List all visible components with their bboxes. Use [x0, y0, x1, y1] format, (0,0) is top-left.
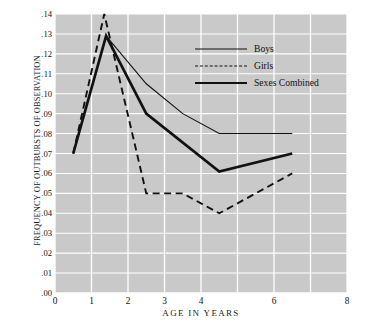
x-tick-label: 0 — [53, 296, 58, 306]
x-tick-label: 6 — [272, 296, 277, 306]
legend-item-sexes-combined: Sexes Combined — [193, 74, 358, 91]
legend-label-girls: Girls — [254, 60, 273, 71]
y-tick-label: .01 — [41, 268, 52, 278]
y-tick-label: .08 — [41, 129, 52, 139]
y-tick-label: .05 — [41, 188, 52, 198]
y-tick-label: .11 — [42, 69, 52, 79]
y-tick-label: .00 — [41, 288, 52, 298]
legend-item-girls: Girls — [193, 57, 358, 74]
y-tick-label: .06 — [41, 168, 52, 178]
thin-solid-line-icon — [193, 43, 249, 55]
x-tick-label: 2 — [126, 296, 131, 306]
y-tick-label: .13 — [41, 29, 52, 39]
x-axis-title: AGE IN YEARS — [55, 308, 347, 318]
thick-solid-line-icon — [193, 77, 249, 89]
y-tick-label: .04 — [41, 208, 52, 218]
legend-label-boys: Boys — [254, 43, 274, 54]
x-tick-label: 8 — [345, 296, 350, 306]
y-tick-label: .02 — [41, 248, 52, 258]
y-tick-label: .03 — [41, 228, 52, 238]
chart-figure: FREQUENCY OF OUTBURSTS OF OBSERVATION .0… — [0, 0, 366, 331]
legend-label-sexes-combined: Sexes Combined — [254, 77, 319, 88]
dashed-line-icon — [193, 60, 249, 72]
legend-item-boys: Boys — [193, 40, 358, 57]
y-axis-title: FREQUENCY OF OUTBURSTS OF OBSERVATION — [33, 11, 42, 291]
x-tick-label: 1 — [89, 296, 94, 306]
x-tick-label: 4 — [199, 296, 204, 306]
x-tick-label: 3 — [162, 296, 167, 306]
y-tick-label: .14 — [41, 9, 52, 19]
y-tick-label: .09 — [41, 109, 52, 119]
y-tick-label: .10 — [41, 89, 52, 99]
y-tick-label: .07 — [41, 149, 52, 159]
chart-legend: Boys Girls Sexes Combined — [193, 40, 358, 91]
y-tick-label: .12 — [41, 49, 52, 59]
